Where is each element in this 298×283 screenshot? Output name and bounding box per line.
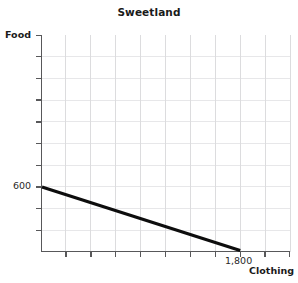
- chart-figure: Sweetland Food Clothing: [0, 0, 298, 283]
- ppf-line: [42, 187, 240, 251]
- plot-area: [41, 35, 290, 252]
- y-axis-label: Food: [5, 29, 31, 40]
- y-axis-ticks: [36, 36, 42, 231]
- x-axis-label: Clothing: [249, 265, 294, 276]
- y-axis-tick-label-600: 600: [13, 180, 31, 191]
- x-axis-ticks: [66, 251, 289, 256]
- chart-title: Sweetland: [0, 6, 298, 18]
- x-axis-tick-label-1800: 1,800: [225, 255, 252, 266]
